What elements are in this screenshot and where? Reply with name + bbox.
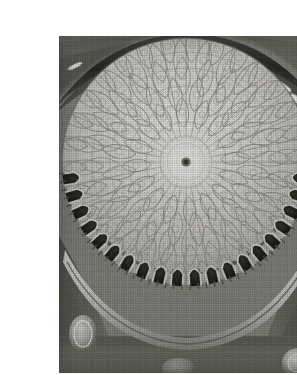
page-canvas [0,0,297,375]
dome-illustration [59,36,297,373]
dome-interior-photograph [59,36,297,373]
global-tone [59,36,297,373]
